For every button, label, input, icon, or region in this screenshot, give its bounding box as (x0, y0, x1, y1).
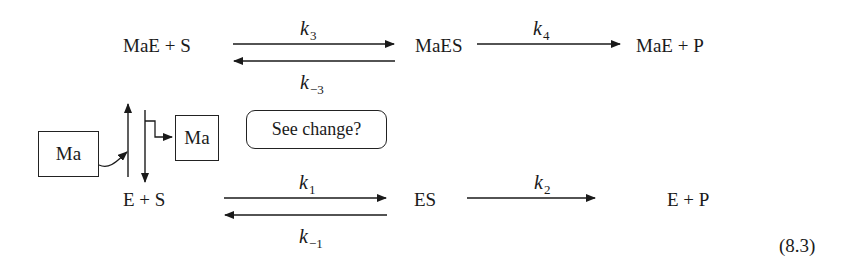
rate-constant-k3: k3 (300, 18, 316, 42)
bottom-reactants: E + S (123, 190, 165, 209)
modifier-box-right: Ma (175, 115, 219, 161)
bottom-products: E + P (667, 190, 709, 209)
rate-constant-k-1: k−1 (299, 226, 323, 250)
curved-arrow-ma-to-binding (99, 152, 127, 166)
top-reactants: MaE + S (123, 36, 191, 55)
rate-constant-k2: k2 (534, 172, 550, 196)
modifier-box-left: Ma (38, 131, 99, 177)
top-complex: MaES (415, 36, 463, 55)
rate-constant-k4: k4 (533, 18, 549, 42)
stepped-arrow-to-released-ma (145, 121, 172, 137)
equation-number: (8.3) (779, 236, 815, 255)
rate-constant-k-3: k−3 (300, 72, 324, 96)
top-products: MaE + P (636, 36, 704, 55)
question-bubble: See change? (246, 110, 387, 149)
rate-constant-k1: k1 (299, 172, 315, 196)
reaction-scheme-diagram: MaE + S MaES MaE + P k3 k−3 k4 Ma Ma See… (0, 0, 862, 273)
bottom-complex: ES (414, 190, 436, 209)
